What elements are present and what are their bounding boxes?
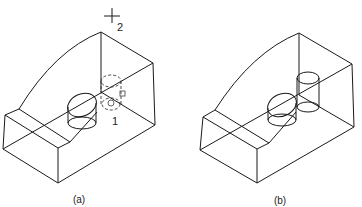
cylinder-a bbox=[64, 89, 100, 129]
caption-a: (a) bbox=[73, 194, 85, 205]
callout-1: 1 bbox=[112, 115, 118, 127]
cylinder-b-1 bbox=[264, 89, 300, 126]
block-wireframe-b bbox=[200, 33, 354, 183]
cylinder-copy-preview bbox=[101, 75, 121, 110]
cylinder-b-2 bbox=[297, 72, 319, 112]
block-wireframe-a bbox=[3, 32, 155, 183]
figure-canvas: 2 1 (a) bbox=[0, 0, 362, 207]
callout-2: 2 bbox=[117, 21, 123, 33]
caption-b: (b) bbox=[274, 195, 286, 206]
panel-b: (b) bbox=[200, 33, 354, 206]
grip-circle-icon bbox=[108, 100, 114, 106]
panel-a: 2 1 (a) bbox=[3, 8, 155, 205]
